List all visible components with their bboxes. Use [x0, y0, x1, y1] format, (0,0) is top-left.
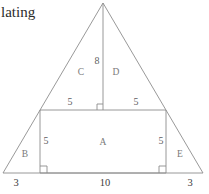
label-base-right-3: 3 — [187, 177, 192, 188]
label-right-height-5: 5 — [159, 135, 164, 146]
diagram-canvas: lating 8 C D 5 5 5 5 A B E 3 10 3 — [0, 0, 209, 194]
geometry-figure: 8 C D 5 5 5 5 A B E 3 10 3 — [0, 0, 209, 194]
label-base-middle-10: 10 — [100, 177, 111, 188]
label-region-b: B — [22, 149, 28, 159]
right-angle-mark-bottom-right — [159, 166, 166, 173]
label-region-a: A — [100, 137, 107, 147]
label-left-height-5: 5 — [44, 135, 49, 146]
label-top-right-5: 5 — [134, 96, 139, 107]
right-angle-mark-center — [97, 104, 103, 110]
label-region-e: E — [177, 149, 183, 159]
right-angle-mark-bottom-left — [40, 166, 47, 173]
label-region-c: C — [78, 67, 84, 77]
label-altitude-8: 8 — [95, 55, 100, 66]
label-region-d: D — [113, 67, 120, 77]
label-top-left-5: 5 — [68, 96, 73, 107]
label-base-left-3: 3 — [13, 177, 18, 188]
